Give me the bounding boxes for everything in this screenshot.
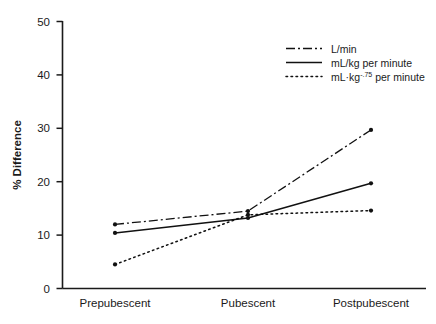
x-category-label-prepubescent: Prepubescent — [80, 297, 152, 309]
series-line-lmin — [115, 130, 371, 225]
y-tick-label-40: 40 — [37, 69, 50, 81]
legend-label-mlkg: mL/kg per minute — [331, 57, 412, 69]
legend-label-mlkg075-base: mL·kg — [331, 71, 360, 83]
x-category-label-pubescent: Pubescent — [221, 297, 276, 309]
y-tick-label-0: 0 — [44, 283, 50, 295]
data-point-lmin-2 — [369, 128, 373, 132]
data-point-mlkg075-1 — [246, 213, 250, 217]
y-axis-title: % Difference — [11, 120, 23, 190]
line-chart: 0 10 20 30 40 50 % Difference Prepubesce… — [0, 0, 436, 324]
data-point-lmin-0 — [113, 222, 117, 226]
legend-label-mlkg075-sup: -.75 — [360, 71, 372, 78]
series-layer — [113, 128, 373, 267]
legend-label-mlkg075: mL·kg-.75 per minute — [331, 71, 425, 83]
legend-label-lmin: L/min — [331, 43, 357, 55]
y-tick-label-50: 50 — [37, 16, 50, 28]
legend-label-mlkg075-tail: per minute — [372, 71, 425, 83]
y-tick-label-10: 10 — [37, 229, 50, 241]
data-point-mlkg075-2 — [369, 208, 373, 212]
chart-container: 0 10 20 30 40 50 % Difference Prepubesce… — [0, 0, 436, 324]
y-axis-ticks — [57, 22, 63, 289]
data-point-lmin-1 — [246, 209, 250, 213]
data-point-mlkg-0 — [113, 231, 117, 235]
data-point-mlkg075-0 — [113, 262, 117, 266]
data-point-mlkg-2 — [369, 181, 373, 185]
legend: L/min mL/kg per minute mL·kg-.75 per min… — [286, 43, 425, 83]
series-line-mlkg — [115, 183, 371, 233]
y-tick-label-20: 20 — [37, 176, 50, 188]
x-category-label-postpubescent: Postpubescent — [333, 297, 410, 309]
y-tick-label-30: 30 — [37, 122, 50, 134]
